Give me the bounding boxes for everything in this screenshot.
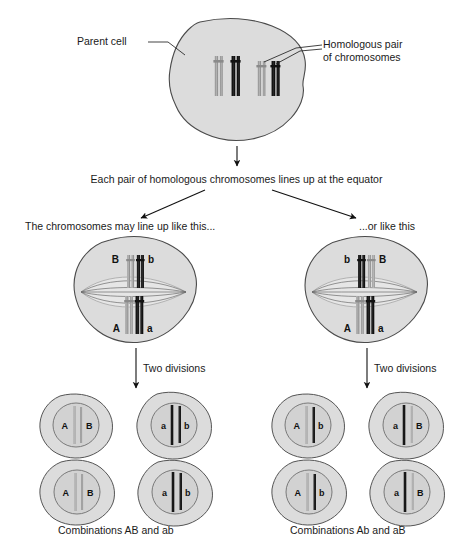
metaphase-cell-right: b B A a	[305, 237, 427, 343]
parent-chromosome-b	[270, 61, 280, 96]
gamete-cell-left-top-left: A B	[40, 394, 113, 458]
metaphase-right-label-bottom-2: a	[378, 323, 384, 334]
gamete-cell-right-bottom-right: a B	[370, 460, 445, 526]
parent-chromosome-B	[256, 61, 266, 96]
label-two-divisions-left: Two divisions	[143, 362, 205, 375]
gamete-cell-right-bottom-left: A b	[272, 460, 347, 525]
gamete-cell-right-top-left: A b	[272, 394, 345, 458]
caption-combinations-right: Combinations Ab and aB	[290, 524, 406, 536]
metaphase-left-label-top-2: b	[148, 254, 154, 265]
gamete-cell-left-bottom-left: A B	[40, 460, 115, 525]
gamete-cell-left-top-right: a b	[137, 392, 212, 459]
label-branch-left: The chromosomes may line up like this...	[25, 220, 215, 233]
gamete-lbl-label-2: B	[87, 488, 94, 498]
gamete-rbl-label-2: b	[319, 488, 325, 498]
label-two-divisions-right: Two divisions	[374, 362, 436, 375]
metaphase-left-label-top-1: B	[112, 254, 119, 265]
gamete-cell-right-top-right: a B	[369, 392, 444, 459]
gamete-rtl-label-2: b	[318, 421, 324, 431]
caption-combinations-left: Combinations AB and ab	[58, 524, 174, 536]
gamete-lbl-label-1: A	[63, 488, 70, 498]
metaphase-right-label-top-2: B	[379, 254, 386, 265]
gamete-rtl-label-1: A	[294, 421, 301, 431]
gamete-ltr-label-2: b	[184, 421, 190, 431]
metaphase-right-label-top-1: b	[344, 254, 350, 265]
arrow-branch-right	[272, 190, 356, 218]
label-equator-text: Each pair of homologous chromosomes line…	[0, 173, 473, 186]
label-homologous-pair-line2: of chromosomes	[323, 51, 401, 64]
gamete-rbl-label-1: A	[295, 488, 302, 498]
metaphase-left-label-bottom-2: a	[147, 323, 153, 334]
gamete-ltl-label-2: B	[86, 421, 93, 431]
gamete-rbr-label-2: B	[417, 488, 424, 498]
label-homologous-pair-line1: Homologous pair	[323, 38, 402, 51]
arrow-branch-left	[141, 190, 205, 218]
gamete-cell-left-bottom-right: a b	[138, 460, 213, 526]
meiosis-diagram: B b A a	[0, 0, 473, 551]
diagram-graphics: B b A a	[0, 0, 473, 551]
metaphase-cell-left: B b A a	[74, 237, 196, 343]
gamete-rtr-label-2: B	[416, 421, 423, 431]
metaphase-right-label-bottom-1: A	[344, 323, 351, 334]
metaphase-left-label-bottom-1: A	[113, 323, 120, 334]
gamete-ltl-label-1: A	[62, 421, 69, 431]
label-parent-cell: Parent cell	[77, 35, 127, 48]
gamete-lbr-label-2: b	[185, 488, 191, 498]
label-branch-right: ...or like this	[359, 220, 415, 233]
